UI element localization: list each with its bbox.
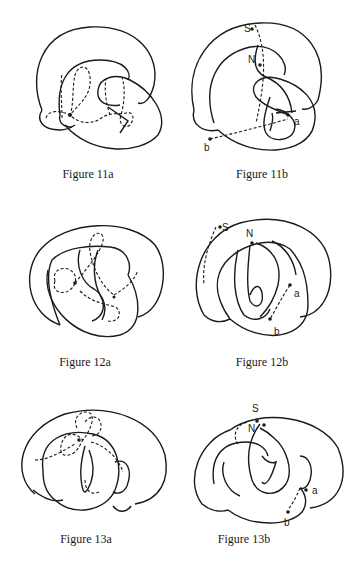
figure-12a-drawing <box>20 205 170 345</box>
label-n: N <box>248 54 255 65</box>
figure-13b: S N a b Figure 13b <box>190 400 350 530</box>
figure-caption: Figure 13a <box>60 532 112 547</box>
figure-caption: Figure 12b <box>236 355 288 370</box>
figure-caption: Figure 12a <box>59 355 111 370</box>
running-header <box>120 0 240 4</box>
label-s: S <box>252 403 259 414</box>
figure-11b-drawing: S N a b <box>190 15 340 165</box>
figure-caption: Figure 11b <box>236 167 288 182</box>
figure-11b: S N a b Figure 11b <box>190 15 340 165</box>
label-a: a <box>294 288 300 299</box>
label-b: b <box>274 326 280 337</box>
label-a: a <box>312 485 318 496</box>
label-n: N <box>248 423 255 434</box>
figure-13a: Figure 13a <box>15 400 165 530</box>
figure-caption: Figure 13b <box>218 532 270 547</box>
label-b: b <box>204 142 210 153</box>
label-s: S <box>244 23 251 34</box>
label-b: b <box>284 517 290 528</box>
figure-13a-drawing <box>15 400 165 530</box>
figure-12b-drawing: S N a b <box>190 205 340 345</box>
figure-12b: S N a b Figure 12b <box>190 205 340 345</box>
figure-11a: Figure 11a <box>20 15 170 165</box>
figure-13b-drawing: S N a b <box>190 400 350 530</box>
label-a: a <box>294 116 300 127</box>
figure-12a: Figure 12a <box>20 205 170 345</box>
figure-caption: Figure 11a <box>62 167 113 182</box>
label-s: S <box>222 222 229 233</box>
label-n: N <box>246 228 253 239</box>
figure-11a-drawing <box>20 15 170 165</box>
